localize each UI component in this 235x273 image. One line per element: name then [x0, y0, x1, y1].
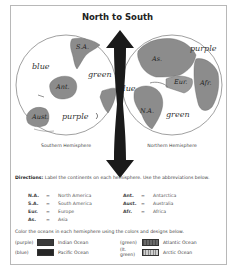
directions-text: Directions: Label the continents on each… [15, 175, 223, 181]
label-green: green [166, 110, 190, 119]
abbreviations-list: N.A. = North America Ant. = Antarctica S… [28, 191, 218, 223]
southern-hemisphere-caption: Southern Hemisphere [14, 143, 118, 148]
ocean-key-item: (lt. green) Arctic Ocean [120, 247, 225, 257]
abbreviation-row: S.A. = South America Aust. = Australia [28, 199, 218, 207]
ocean-name: Arctic Ocean [163, 250, 192, 255]
ocean-name: Atlantic Ocean [163, 240, 197, 245]
arctic-ocean-swatch [142, 249, 159, 256]
abbreviation-item: S.A. = South America [28, 201, 123, 206]
abbr-value: Europe [58, 209, 123, 214]
abbreviation-row: N.A. = North America Ant. = Antarctica [28, 191, 218, 199]
label-purple: purple [190, 44, 217, 53]
abbr-equals: = [46, 201, 58, 206]
abbreviation-item: N.A. = North America [28, 193, 123, 198]
abbr-key: S.A. [28, 201, 46, 206]
directions-lead: Directions: [15, 175, 43, 180]
abbr-key: N.A. [28, 193, 46, 198]
abbr-equals: = [141, 193, 153, 198]
ocean-key-row: (purple) Indian Ocean (green) Atlantic O… [15, 237, 225, 247]
ocean-instructions: Color the oceans in each hemisphere usin… [15, 229, 225, 234]
abbr-key: Afr. [123, 209, 141, 214]
ocean-name: Pacific Ocean [58, 250, 89, 255]
indian-ocean-swatch [37, 239, 54, 246]
abbr-value: North America [58, 193, 123, 198]
abbr-equals: = [46, 209, 58, 214]
abbreviation-row: Eur. = Europe Afr. = Africa [28, 207, 218, 215]
directions-body: Label the continents on each hemisphere.… [43, 175, 209, 180]
abbr-key: As. [28, 217, 46, 222]
ocean-color-label: (lt. green) [120, 247, 142, 257]
abbr-equals: = [141, 209, 153, 214]
abbreviation-item: Eur. = Europe [28, 209, 123, 214]
abbr-key: Ant. [123, 193, 141, 198]
ocean-key-item: (green) Atlantic Ocean [120, 239, 225, 246]
abbr-value: South America [58, 201, 123, 206]
north-south-arrow-icon [100, 30, 140, 178]
page-title: North to South [0, 12, 235, 22]
abbr-equals: = [46, 193, 58, 198]
label-afr: Afr. [199, 79, 211, 87]
abbr-equals: = [46, 217, 58, 222]
ocean-color-label: (green) [120, 240, 142, 245]
ocean-key-item: (purple) Indian Ocean [15, 239, 120, 246]
ocean-key-row: (blue) Pacific Ocean (lt. green) Arctic … [15, 247, 225, 257]
abbreviation-item: Aust. = Australia [123, 201, 218, 206]
abbreviation-item: Afr. = Africa [123, 209, 218, 214]
label-na: N.A. [139, 107, 154, 115]
abbr-key: Aust. [123, 201, 141, 206]
abbr-value: Antarctica [153, 193, 218, 198]
pacific-ocean-swatch [37, 249, 54, 256]
ocean-color-label: (blue) [15, 250, 37, 255]
abbreviation-item: As. = Asia [28, 217, 123, 222]
label-sa: S.A. [76, 43, 89, 51]
ocean-name: Indian Ocean [58, 240, 88, 245]
label-ant: Ant. [55, 83, 70, 91]
label-aust: Aust. [31, 113, 49, 121]
label-eur: Eur. [173, 78, 187, 86]
abbr-value: Africa [153, 209, 218, 214]
label-blue: blue [32, 62, 50, 71]
ocean-color-key: (purple) Indian Ocean (green) Atlantic O… [15, 237, 225, 257]
ocean-key-item: (blue) Pacific Ocean [15, 249, 120, 256]
abbr-equals: = [141, 201, 153, 206]
abbr-value: Asia [58, 217, 123, 222]
abbreviation-row: As. = Asia [28, 215, 218, 223]
label-purple: purple [62, 112, 89, 121]
ocean-color-label: (purple) [15, 240, 37, 245]
label-as: As. [151, 55, 162, 63]
abbr-key: Eur. [28, 209, 46, 214]
atlantic-ocean-swatch [142, 239, 159, 246]
northern-hemisphere-caption: Northern Hemisphere [120, 143, 224, 148]
abbreviation-item: Ant. = Antarctica [123, 193, 218, 198]
abbr-value: Australia [153, 201, 218, 206]
